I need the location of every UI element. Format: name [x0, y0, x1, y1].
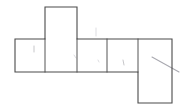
face-center-right — [107, 39, 138, 72]
face-left — [15, 39, 45, 72]
net-face-group — [15, 7, 172, 103]
face-center-left — [45, 39, 77, 72]
face-bottom-right — [138, 39, 172, 103]
cube-net-figure — [0, 0, 182, 107]
diagram-canvas — [0, 0, 182, 107]
face-center — [77, 39, 107, 72]
face-top — [45, 7, 77, 39]
